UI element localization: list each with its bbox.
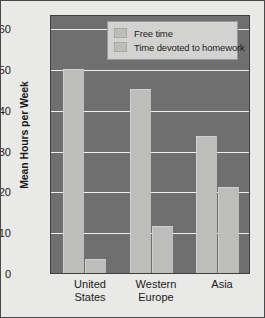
legend-swatch-icon	[114, 42, 127, 52]
y-tick-label: 10	[0, 227, 11, 239]
legend: Free time Time devoted to homework	[107, 21, 238, 60]
y-tick-label: 30	[0, 146, 11, 158]
y-tick-label: 60	[0, 23, 11, 35]
chart-figure: Mean Hours per Week 60 50 40 30 20 10 0 …	[0, 0, 265, 318]
bar	[218, 187, 239, 273]
bar	[152, 226, 173, 273]
bar	[196, 136, 217, 273]
bar	[85, 259, 106, 273]
legend-item-free-time: Free time	[114, 26, 231, 40]
bar	[130, 89, 151, 273]
y-tick-label: 0	[0, 268, 11, 280]
legend-label: Free time	[134, 28, 173, 39]
legend-label: Time devoted to homework	[134, 42, 245, 53]
y-tick-label: 20	[0, 186, 11, 198]
bar	[63, 69, 84, 273]
y-axis-title: Mean Hours per Week	[18, 60, 30, 210]
y-tick-label: 50	[0, 64, 11, 76]
x-axis-label-asia: Asia	[182, 278, 262, 291]
legend-swatch-icon	[114, 28, 127, 38]
legend-item-homework: Time devoted to homework	[114, 40, 231, 54]
y-tick-label: 40	[0, 105, 11, 117]
